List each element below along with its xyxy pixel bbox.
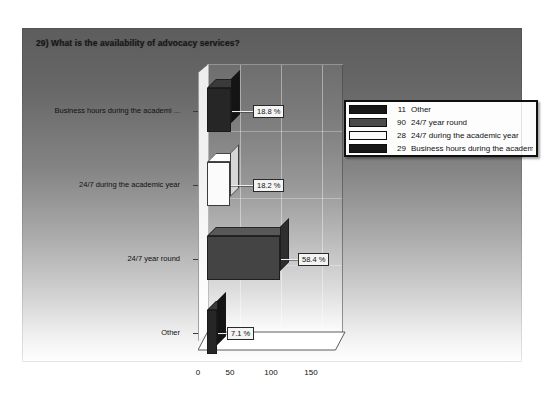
bar-side [230,144,239,197]
xtick-100: 100 [259,368,283,377]
bar-247-academic-year[interactable] [207,162,230,206]
bar-other[interactable] [207,310,217,354]
bar-face [207,236,280,280]
leader-line-247-year-round [281,259,299,260]
xtick-0: 0 [186,368,210,377]
chart-screenshot: 29) What is the availability of advocacy… [0,0,544,407]
legend-item-other[interactable]: 11 Other [349,103,533,115]
category-label-247-academic-year: 24/7 during the academic year [22,180,180,190]
value-callout-247-academic-year: 18.2 % [253,179,284,192]
value-callout-business-hours: 18.8 % [253,105,284,118]
bar-business-hours[interactable] [207,88,231,132]
legend-swatch-business-hours [349,144,387,153]
legend-label-business-hours: Business hours during the academi [411,144,533,153]
tick-category-1 [193,111,198,112]
chart-legend: 11 Other 90 24/7 year round 28 24/7 duri… [344,100,538,157]
category-label-business-hours: Business hours during the academi ... [22,106,180,116]
category-label-247-academic-year-text: 24/7 during the academic year [79,180,180,189]
legend-label-other: Other [411,105,431,114]
category-label-247-year-round: 24/7 year round [22,254,180,264]
legend-swatch-247-academic-year [349,131,387,140]
category-label-247-year-round-text: 24/7 year round [127,254,180,263]
xtick-50: 50 [218,368,242,377]
leader-line-business-hours [232,111,254,112]
legend-label-247-academic-year: 24/7 during the academic year [411,131,519,140]
category-label-other: Other [22,328,180,338]
tick-category-3 [193,259,198,260]
bar-face [207,162,230,206]
leader-line-247-academic-year [231,185,254,186]
gridline-vertical-150 [322,65,323,333]
bar-face [207,310,217,354]
legend-item-247-academic-year[interactable]: 28 24/7 during the academic year [349,129,533,141]
legend-count-business-hours: 29 [392,144,406,153]
legend-label-247-year-round: 24/7 year round [411,118,467,127]
bar-side [217,292,226,345]
chart-title: 29) What is the availability of advocacy… [36,38,240,48]
legend-swatch-other [349,105,387,114]
legend-count-247-academic-year: 28 [392,131,406,140]
bar-face [207,88,231,132]
category-label-business-hours-text: Business hours during the academi [54,106,171,115]
tick-category-2 [193,185,198,186]
xtick-150: 150 [299,368,323,377]
legend-item-business-hours[interactable]: 29 Business hours during the academi [349,142,533,154]
bar-top [207,227,289,236]
bar-side [280,218,289,271]
tick-category-4 [193,333,198,334]
legend-item-247-year-round[interactable]: 90 24/7 year round [349,116,533,128]
chart-frame: 29) What is the availability of advocacy… [22,28,522,362]
value-callout-other: 7.1 % [227,327,254,340]
category-label-other-text: Other [161,328,180,337]
gridline-vertical-50 [240,65,241,333]
value-callout-247-year-round: 58.4 % [298,253,329,266]
bar-247-year-round[interactable] [207,236,280,280]
legend-count-other: 11 [392,105,406,114]
legend-count-247-year-round: 90 [392,118,406,127]
plot-area: 18.8 % 18.2 % 58.4 % [185,64,365,362]
bar-side [231,70,240,123]
legend-swatch-247-year-round [349,118,387,127]
category-label-ellipsis: ... [174,106,180,115]
